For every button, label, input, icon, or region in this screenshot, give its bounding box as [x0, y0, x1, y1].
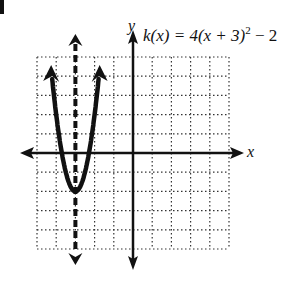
equation-constant: − 2 [251, 26, 278, 45]
y-axis-label: y [128, 17, 135, 35]
x-axis-label: x [247, 143, 254, 161]
function-equation: k(x) = 4(x + 3)2 − 2 [143, 24, 277, 46]
equation-main: k(x) = 4(x + 3) [143, 26, 245, 45]
